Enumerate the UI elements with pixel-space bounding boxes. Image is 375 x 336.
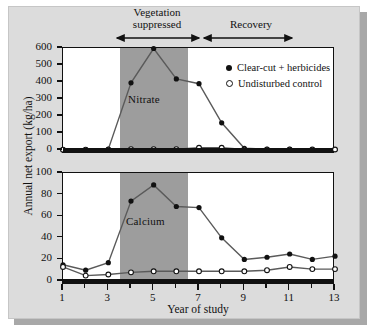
data-point [242,257,247,262]
data-point [174,269,179,274]
data-point [310,267,315,272]
x-tick [265,284,266,288]
x-tick [152,284,153,290]
data-point [265,268,270,273]
data-point [196,81,201,86]
plot-calcium [63,173,335,285]
y-tick [57,148,62,149]
y-tick-label: 300 [18,92,52,103]
data-point [332,254,337,259]
y-tick-label: 200 [18,109,52,120]
data-point [128,80,133,85]
x-tick-label: 5 [143,291,163,303]
data-point [151,46,156,51]
data-point [61,265,66,270]
data-point [219,235,224,240]
x-tick-label: 13 [324,291,344,303]
data-point [151,182,156,187]
axis-baseline-calcium [63,279,333,283]
data-point [333,267,338,272]
legend-item-clear-cut: Clear-cut + herbicides [226,61,330,73]
data-point [264,255,269,260]
y-tick-label: 60 [18,209,52,220]
y-tick [57,215,62,216]
data-point [242,269,247,274]
data-point [106,272,111,277]
data-point [197,269,202,274]
y-tick-label: 500 [18,58,52,69]
legend-item-undisturbed: Undisturbed control [226,77,322,89]
y-tick [57,46,62,47]
data-point [196,205,201,210]
panel-calcium [62,172,334,284]
y-tick-label: 0 [18,274,52,285]
x-tick [333,284,334,290]
y-tick-label: 600 [18,41,52,52]
axis-baseline-nitrate [63,148,333,152]
data-point [128,198,133,203]
x-tick-label: 1 [52,291,72,303]
x-tick-label: 9 [233,291,253,303]
y-tick-label: 0 [18,143,52,154]
x-tick-label: 3 [97,291,117,303]
x-tick [288,284,289,290]
panel-label-calcium: Calcium [126,215,165,227]
data-point [83,273,88,278]
data-point [310,257,315,262]
x-tick [243,284,244,290]
data-point [106,260,111,265]
data-point [219,269,224,274]
x-tick [197,284,198,290]
y-tick [57,131,62,132]
data-point [151,269,156,274]
y-tick [57,171,62,172]
plate-shadow-right [360,12,367,323]
x-tick [220,284,221,288]
x-tick [175,284,176,288]
data-point [219,120,224,125]
x-tick [61,284,62,290]
annotation-arrows [0,0,375,50]
data-point [174,76,179,81]
legend-label-clear-cut: Clear-cut + herbicides [237,62,330,73]
y-tick [57,114,62,115]
open-circle-icon [226,80,233,87]
legend-label-undisturbed: Undisturbed control [238,78,322,89]
x-tick-label: 11 [279,291,299,303]
figure-root: Vegetation suppressed Recovery Annual ne… [0,0,375,336]
data-point [287,251,292,256]
y-tick [57,193,62,194]
x-tick [129,284,130,288]
x-axis-title: Year of study [62,303,334,315]
y-tick-label: 20 [18,252,52,263]
y-tick-label: 100 [18,166,52,177]
data-point [129,270,134,275]
x-tick [84,284,85,288]
data-point [174,204,179,209]
filled-circle-icon [226,65,232,71]
series-line-clear-cut [63,185,335,270]
y-tick-label: 400 [18,75,52,86]
data-point [333,147,338,152]
data-point [83,268,88,273]
y-tick [57,236,62,237]
x-tick [107,284,108,290]
y-tick-label: 40 [18,231,52,242]
y-tick [57,279,62,280]
plate-shadow-bottom [14,319,367,325]
panel-label-nitrate: Nitrate [128,93,160,105]
y-tick [57,97,62,98]
y-tick [57,258,62,259]
x-tick [311,284,312,288]
y-tick [57,63,62,64]
data-point [287,265,292,270]
y-tick [57,80,62,81]
y-tick-label: 100 [18,126,52,137]
y-tick-label: 80 [18,188,52,199]
x-tick-label: 7 [188,291,208,303]
